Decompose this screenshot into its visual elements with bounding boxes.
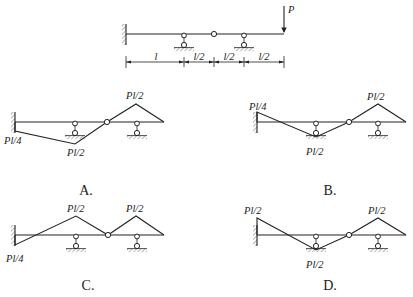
- svg-text:Pl/2: Pl/2: [125, 203, 144, 214]
- svg-text:Pl/4: Pl/4: [3, 135, 22, 146]
- option-c[interactable]: Pl/4 Pl/2 Pl/2 C.: [5, 203, 164, 293]
- dim-label: l/2: [258, 51, 270, 62]
- option-label: C.: [82, 278, 95, 293]
- svg-text:Pl/2: Pl/2: [66, 203, 85, 214]
- dim-label: l/2: [193, 51, 205, 62]
- dim-label: l: [155, 51, 158, 62]
- svg-text:Pl/2: Pl/2: [305, 146, 324, 157]
- dimension-line: l l/2 l/2 l/2: [126, 51, 284, 68]
- problem-beam: P l l/2 l/2 l/2: [122, 4, 295, 68]
- hinge-icon: [211, 31, 216, 36]
- structural-diagram: P l l/2 l/2 l/2 Pl/4 Pl/2 Pl/2 A.: [0, 0, 413, 297]
- svg-text:Pl/4: Pl/4: [5, 253, 24, 264]
- dim-label: l/2: [223, 51, 235, 62]
- load-label: P: [287, 4, 295, 15]
- svg-text:Pl/2: Pl/2: [125, 90, 144, 101]
- option-label: A.: [79, 183, 93, 198]
- moment-diagram: [257, 104, 406, 137]
- roller-support-icon: [174, 33, 194, 51]
- svg-text:Pl/2: Pl/2: [243, 205, 262, 216]
- moment-diagram: [15, 216, 164, 245]
- svg-text:Pl/4: Pl/4: [248, 101, 267, 112]
- moment-diagram: [257, 218, 406, 250]
- svg-text:Pl/2: Pl/2: [367, 205, 386, 216]
- svg-text:Pl/2: Pl/2: [305, 259, 324, 270]
- option-a[interactable]: Pl/4 Pl/2 Pl/2 A.: [3, 90, 164, 198]
- svg-text:Pl/2: Pl/2: [366, 91, 385, 102]
- fixed-wall-icon: [122, 24, 126, 45]
- option-d[interactable]: Pl/2 Pl/2 Pl/2 D.: [243, 205, 406, 293]
- option-label: D.: [323, 278, 337, 293]
- option-label: B.: [324, 183, 337, 198]
- option-b[interactable]: Pl/4 Pl/2 Pl/2 B.: [248, 91, 406, 198]
- roller-support-icon: [234, 33, 254, 51]
- svg-text:Pl/2: Pl/2: [66, 147, 85, 158]
